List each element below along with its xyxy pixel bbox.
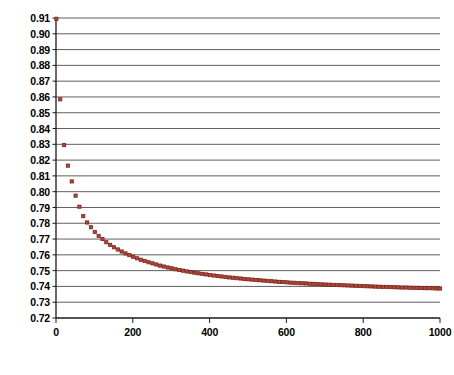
y-tick-label: 0.90 xyxy=(8,28,50,40)
data-point-marker xyxy=(316,282,319,285)
data-point-marker xyxy=(120,250,123,253)
data-point-marker xyxy=(235,277,238,280)
data-point-marker xyxy=(185,270,188,273)
data-markers-group xyxy=(55,17,442,290)
data-point-marker xyxy=(74,194,77,197)
data-point-marker xyxy=(86,221,89,224)
data-point-marker xyxy=(427,287,430,290)
y-tick-label: 0.86 xyxy=(8,91,50,103)
data-point-marker xyxy=(59,98,62,101)
data-point-marker xyxy=(297,282,300,285)
y-tick-label: 0.91 xyxy=(8,12,50,24)
data-point-marker xyxy=(354,284,357,287)
data-point-marker xyxy=(174,268,177,271)
data-point-marker xyxy=(289,281,292,284)
data-point-marker xyxy=(304,282,307,285)
axes-group xyxy=(53,18,441,318)
data-point-marker xyxy=(135,257,138,260)
x-tick-label: 0 xyxy=(26,326,86,338)
data-point-marker xyxy=(147,261,150,264)
data-point-marker xyxy=(312,282,315,285)
data-point-marker xyxy=(262,279,265,282)
y-tick-label: 0.78 xyxy=(8,217,50,229)
data-point-marker xyxy=(438,287,441,290)
data-point-marker xyxy=(182,269,185,272)
data-point-marker xyxy=(420,286,423,289)
y-tick-label: 0.75 xyxy=(8,265,50,277)
data-point-marker xyxy=(201,272,204,275)
y-tick-label: 0.87 xyxy=(8,75,50,87)
data-point-marker xyxy=(358,284,361,287)
y-tick-label: 0.81 xyxy=(8,170,50,182)
y-tick-label: 0.80 xyxy=(8,186,50,198)
x-tick-label: 600 xyxy=(256,326,316,338)
data-point-marker xyxy=(220,275,223,278)
y-tick-label: 0.89 xyxy=(8,44,50,56)
data-point-marker xyxy=(128,254,131,257)
data-point-marker xyxy=(143,259,146,262)
data-point-marker xyxy=(377,285,380,288)
data-point-marker xyxy=(97,234,100,237)
data-point-marker xyxy=(408,286,411,289)
data-point-marker xyxy=(216,274,219,277)
data-point-marker xyxy=(254,278,257,281)
data-point-marker xyxy=(320,283,323,286)
x-tick-label: 800 xyxy=(333,326,393,338)
data-point-marker xyxy=(270,280,273,283)
data-point-marker xyxy=(101,237,104,240)
data-point-marker xyxy=(412,286,415,289)
data-point-marker xyxy=(224,275,227,278)
y-tick-label: 0.79 xyxy=(8,202,50,214)
data-point-marker xyxy=(158,264,161,267)
data-point-marker xyxy=(212,274,215,277)
data-point-marker xyxy=(231,276,234,279)
data-point-marker xyxy=(274,280,277,283)
data-point-marker xyxy=(197,272,200,275)
data-point-marker xyxy=(393,286,396,289)
data-point-marker xyxy=(301,282,304,285)
x-tick-label: 400 xyxy=(180,326,240,338)
data-point-marker xyxy=(82,215,85,218)
data-point-marker xyxy=(189,270,192,273)
y-tick-label: 0.77 xyxy=(8,233,50,245)
xtick-marks-group xyxy=(56,318,440,323)
data-point-marker xyxy=(132,255,135,258)
data-point-marker xyxy=(381,285,384,288)
data-point-marker xyxy=(278,280,281,283)
data-point-marker xyxy=(416,286,419,289)
y-tick-label: 0.83 xyxy=(8,138,50,150)
data-point-marker xyxy=(89,226,92,229)
y-tick-label: 0.76 xyxy=(8,249,50,261)
data-point-marker xyxy=(124,252,127,255)
data-point-marker xyxy=(78,205,81,208)
data-point-marker xyxy=(431,287,434,290)
data-point-marker xyxy=(335,283,338,286)
data-point-marker xyxy=(228,276,231,279)
data-point-marker xyxy=(170,267,173,270)
y-tick-label: 0.85 xyxy=(8,107,50,119)
data-point-marker xyxy=(151,262,154,265)
data-point-marker xyxy=(208,273,211,276)
y-tick-label: 0.72 xyxy=(8,312,50,324)
data-point-marker xyxy=(155,263,158,266)
data-point-marker xyxy=(339,284,342,287)
data-point-marker xyxy=(266,279,269,282)
x-tick-label: 200 xyxy=(103,326,163,338)
data-point-marker xyxy=(205,273,208,276)
data-point-marker xyxy=(389,285,392,288)
data-point-marker xyxy=(285,281,288,284)
data-point-marker xyxy=(70,180,73,183)
data-point-marker xyxy=(308,282,311,285)
data-point-marker xyxy=(366,285,369,288)
data-point-marker xyxy=(66,164,69,167)
data-point-marker xyxy=(374,285,377,288)
data-point-marker xyxy=(55,17,58,20)
data-point-marker xyxy=(258,279,261,282)
data-point-marker xyxy=(362,285,365,288)
gridlines-group xyxy=(56,18,440,302)
data-point-marker xyxy=(343,284,346,287)
data-point-marker xyxy=(139,258,142,261)
y-tick-label: 0.84 xyxy=(8,123,50,135)
y-tick-label: 0.73 xyxy=(8,296,50,308)
data-point-marker xyxy=(370,285,373,288)
